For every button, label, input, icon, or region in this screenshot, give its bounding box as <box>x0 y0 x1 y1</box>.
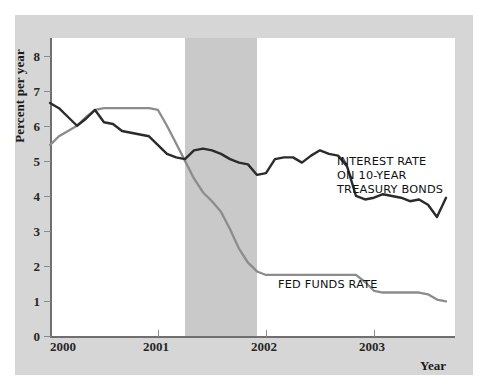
y-axis-tick-label: 5 <box>14 155 40 168</box>
annotation-treasury-bonds: INTEREST RATE ON 10-YEAR TREASURY BONDS <box>337 155 443 196</box>
y-axis-tick <box>44 266 51 267</box>
annotation-treasury-line-2: ON 10-YEAR <box>337 169 443 183</box>
annotation-treasury-line-3: TREASURY BONDS <box>337 183 443 197</box>
y-axis-tick <box>44 56 51 57</box>
y-axis-tick-label: 4 <box>14 190 40 203</box>
y-axis-tick-label: 3 <box>14 225 40 238</box>
recession-shaded-region <box>185 38 257 337</box>
chart-figure: 0123456782000200120022003 Percent per ye… <box>0 0 488 391</box>
y-axis-tick <box>44 301 51 302</box>
x-axis-tick <box>266 330 267 337</box>
y-axis-tick-label: 1 <box>14 295 40 308</box>
y-axis-tick <box>44 196 51 197</box>
y-axis-tick <box>44 91 51 92</box>
y-axis-tick <box>44 126 51 127</box>
x-axis-title: Year <box>420 358 446 374</box>
x-axis-tick-label: 2001 <box>143 340 169 353</box>
y-axis-tick <box>44 231 51 232</box>
annotation-fed-funds-rate: FED FUNDS RATE <box>278 278 378 292</box>
x-axis-tick <box>374 330 375 337</box>
x-axis-tick-label: 2002 <box>251 340 277 353</box>
y-axis-line <box>50 38 52 337</box>
y-axis-tick <box>44 161 51 162</box>
x-axis-line <box>50 336 455 338</box>
x-axis-tick <box>158 330 159 337</box>
x-axis-tick-label: 2000 <box>50 340 76 353</box>
y-axis-tick-label: 2 <box>14 260 40 273</box>
annotation-treasury-line-1: INTEREST RATE <box>337 155 443 169</box>
y-axis-title: Percent per year <box>12 46 28 146</box>
y-axis-tick-label: 0 <box>14 330 40 343</box>
y-axis-tick <box>44 336 51 337</box>
x-axis-tick-label: 2003 <box>359 340 385 353</box>
